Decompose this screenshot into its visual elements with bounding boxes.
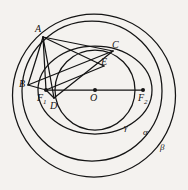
point-label-F2: F2 [138,93,148,106]
point-label-B: B [19,79,25,89]
point-label-A: A [35,24,41,34]
point-dot-F1 [44,88,48,92]
point-label-subscript-F2: 2 [144,98,148,106]
point-label-C: C [112,40,119,50]
point-label-F1: F1 [37,93,47,106]
segment-F1-E [46,66,104,90]
segment-B-F1 [28,85,46,90]
curve-label-gamma: γ [124,123,128,132]
point-label-O: O [90,93,97,103]
point-label-E: E [101,57,107,67]
point-label-subscript-F1: 1 [43,98,47,106]
curve-label-alpha: α [143,128,148,137]
point-label-D: D [50,101,57,111]
geometry-figure: βαγABCDEF1OF2 [0,0,188,190]
curve-label-beta: β [160,143,164,152]
segment-A-C [43,37,113,51]
